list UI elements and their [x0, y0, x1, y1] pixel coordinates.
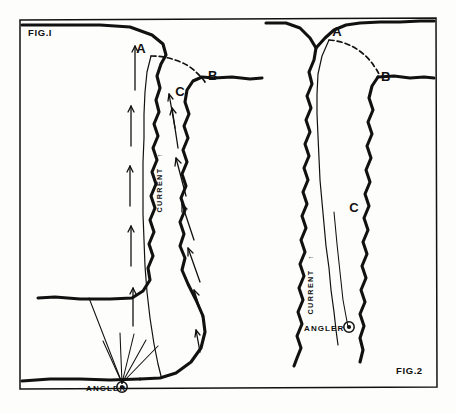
fig2-right-bank	[360, 77, 378, 362]
fig2-cast-line	[334, 212, 348, 327]
fig1-label-a: A	[136, 41, 146, 56]
fig1-cast-lines	[89, 298, 158, 383]
angling-diagram: A B C CURRENT ↑ ANGLER FIG.I	[0, 0, 456, 413]
fig2-current-label: CURRENT	[306, 270, 315, 315]
fig1-current-arrows-left	[127, 46, 138, 326]
fig2-caption: FIG.2	[396, 365, 423, 376]
fig1-far-shore-right	[214, 77, 262, 79]
fig2-inner-channel	[317, 40, 338, 345]
fig1-current-label: CURRENT	[155, 168, 164, 213]
fig2-angler-marker-icon	[344, 322, 354, 332]
diagram-border	[20, 18, 437, 389]
fig1-label-c: C	[175, 84, 185, 99]
fig2-current-arrow-icon: ↑	[306, 255, 315, 260]
fig1-group: A B C CURRENT ↑ ANGLER FIG.I	[22, 25, 262, 393]
fig1-current-arrows-right	[170, 108, 204, 352]
fig2-label-b: B	[381, 69, 390, 84]
fig2-angler-label: ANGLER	[304, 324, 344, 333]
fig2-group: A B C CURRENT ↑ ANGLER FIG.2	[266, 21, 434, 376]
fig2-label-a: A	[332, 24, 342, 39]
fig1-current-arrow-icon: ↑	[155, 153, 164, 158]
fig2-current-group: CURRENT ↑	[306, 255, 315, 315]
fig1-caption: FIG.I	[28, 27, 52, 38]
fig2-cast-arc-a-b	[329, 40, 379, 74]
figure-root: A B C CURRENT ↑ ANGLER FIG.I	[0, 0, 456, 413]
fig2-label-c: C	[349, 200, 359, 215]
fig1-label-b: B	[208, 68, 217, 83]
